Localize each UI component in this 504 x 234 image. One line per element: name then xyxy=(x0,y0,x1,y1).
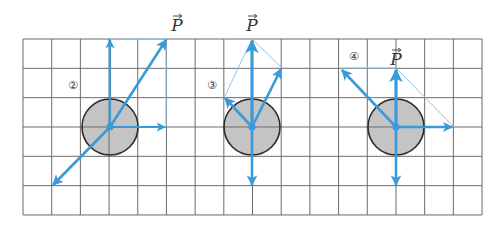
application-point xyxy=(107,124,114,131)
case-number-3: ③ xyxy=(207,79,217,92)
guide-line xyxy=(252,39,282,68)
case-number-4: ④ xyxy=(349,50,359,63)
vector-p-label: P xyxy=(170,15,183,35)
application-point xyxy=(249,124,256,131)
case-number-2: ② xyxy=(68,79,78,92)
vector-p-label: P xyxy=(245,15,258,35)
force-diagram-canvas: ②P③P④P xyxy=(0,0,504,234)
application-point xyxy=(393,124,400,131)
vector-p-label: P xyxy=(389,49,402,69)
force-diagram-figure: ②P③P④P xyxy=(0,0,504,234)
